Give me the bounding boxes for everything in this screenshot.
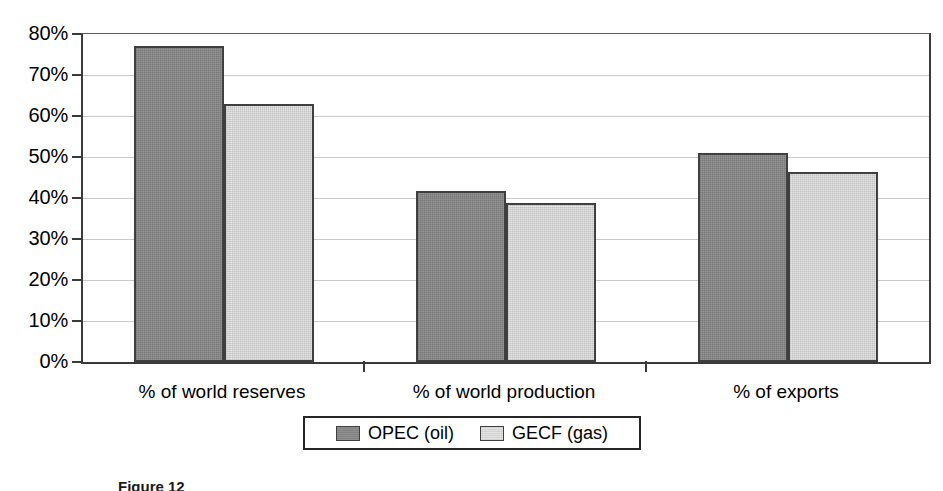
y-axis-tick-label: 70% <box>6 64 68 84</box>
y-axis-tick-mark <box>72 33 81 35</box>
y-axis-tick-label: 80% <box>6 23 68 43</box>
x-axis-category-separator <box>363 361 365 372</box>
y-axis-tick-mark <box>72 115 81 117</box>
legend-swatch-opec <box>336 426 360 441</box>
legend-entry-opec[interactable]: OPEC (oil) <box>336 423 454 443</box>
legend-label-opec: OPEC (oil) <box>368 423 454 443</box>
bar-opec-1 <box>416 191 506 362</box>
y-axis-tick-label: 10% <box>6 310 68 330</box>
bar-opec-0 <box>134 46 224 362</box>
y-axis-tick-mark <box>72 320 81 322</box>
y-axis-tick-mark <box>72 197 81 199</box>
x-axis-category-separator <box>645 361 647 372</box>
y-axis-tick-mark <box>72 238 81 240</box>
x-axis-category-label: % of world production <box>363 380 645 403</box>
figure-caption: Figure 12 <box>118 478 185 491</box>
y-axis-tick-mark <box>72 74 81 76</box>
legend-entry-gecf[interactable]: GECF (gas) <box>480 423 608 443</box>
plot-area <box>81 33 931 364</box>
y-axis-tick-label: 60% <box>6 105 68 125</box>
y-axis-tick-label: 40% <box>6 187 68 207</box>
y-axis-tick-mark <box>72 361 81 363</box>
y-axis-tick-label: 30% <box>6 228 68 248</box>
bar-gecf-1 <box>506 203 596 362</box>
bar-gecf-0 <box>224 104 314 362</box>
chart-legend: OPEC (oil) GECF (gas) <box>303 416 641 450</box>
y-axis-tick-mark <box>72 156 81 158</box>
y-axis-tick-label: 20% <box>6 269 68 289</box>
legend-label-gecf: GECF (gas) <box>512 423 608 443</box>
y-axis-tick-mark <box>72 279 81 281</box>
x-axis-category-label: % of world reserves <box>81 380 363 403</box>
legend-swatch-gecf <box>480 426 504 441</box>
x-axis-category-label: % of exports <box>645 380 927 403</box>
bar-opec-2 <box>698 153 788 362</box>
y-axis-tick-label: 0% <box>6 351 68 371</box>
figure-bar-chart: 0%10%20%30%40%50%60%70%80% % of world re… <box>0 0 943 491</box>
y-axis-tick-label: 50% <box>6 146 68 166</box>
bar-gecf-2 <box>788 172 878 362</box>
